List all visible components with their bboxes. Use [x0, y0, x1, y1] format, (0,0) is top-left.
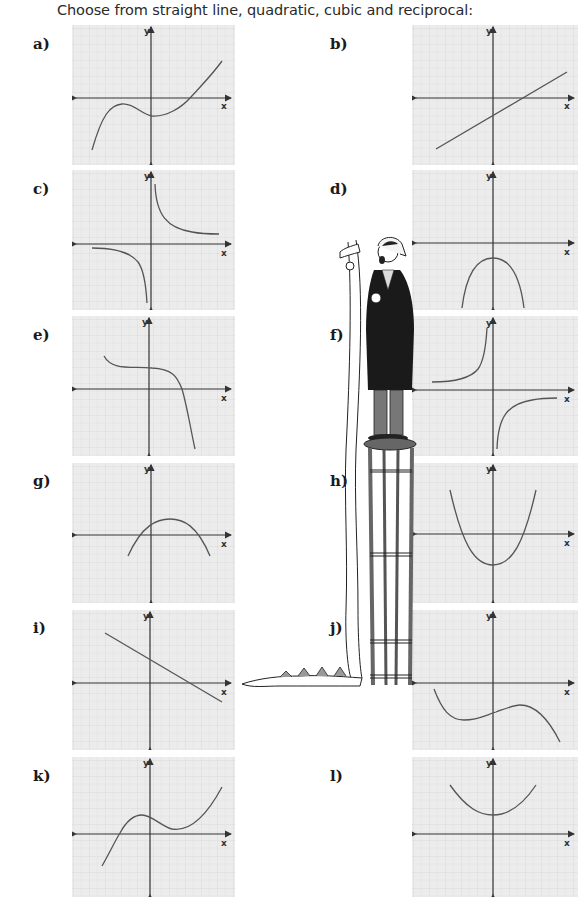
x-axis-label: x	[564, 394, 570, 404]
graph-panel-k: y x	[72, 757, 235, 897]
graph-e: y x	[72, 316, 235, 456]
graph-f: y x	[412, 316, 578, 456]
graph-panel-h: y x	[412, 463, 578, 603]
instruction-text: Choose from straight line, quadratic, cu…	[57, 2, 473, 18]
graph-panel-c: y x	[72, 170, 235, 310]
y-axis-label: y	[486, 318, 492, 328]
graph-l: y x	[412, 757, 578, 897]
x-axis-label: x	[221, 838, 227, 848]
graph-j: y x	[412, 610, 578, 750]
label-c: c)	[33, 180, 49, 198]
graph-panel-j: y x	[412, 610, 578, 750]
x-axis-label: x	[221, 393, 227, 403]
y-axis-label: y	[486, 171, 492, 181]
y-axis-label: y	[144, 464, 150, 474]
y-axis-label: y	[143, 758, 149, 768]
graph-a: y x	[72, 25, 235, 165]
graph-g: y x	[72, 463, 235, 603]
illustration-man-reading-scroll	[240, 170, 420, 690]
y-axis-label: y	[144, 171, 150, 181]
x-axis-label: x	[564, 687, 570, 697]
y-axis-label: y	[486, 611, 492, 621]
y-axis-label: y	[486, 26, 492, 36]
graph-panel-l: y x	[412, 757, 578, 897]
label-a: a)	[33, 35, 50, 53]
graph-panel-b: y x	[412, 25, 578, 165]
graph-panel-a: y x	[72, 25, 235, 165]
y-axis-label: y	[144, 26, 150, 36]
x-axis-label: x	[564, 101, 570, 111]
x-axis-label: x	[221, 539, 227, 549]
label-e: e)	[33, 326, 50, 344]
label-g: g)	[33, 472, 51, 490]
man-on-stool-illustration	[240, 170, 420, 690]
x-axis-label: x	[221, 687, 227, 697]
graph-panel-g: y x	[72, 463, 235, 603]
y-axis-label: y	[143, 611, 149, 621]
y-axis-label: y	[142, 317, 148, 327]
graph-c: y x	[72, 170, 235, 310]
label-i: i)	[33, 619, 46, 637]
graph-b: y x	[412, 25, 578, 165]
y-axis-label: y	[486, 464, 492, 474]
label-b: b)	[330, 35, 348, 53]
x-axis-label: x	[221, 248, 227, 258]
y-axis-label: y	[486, 758, 492, 768]
x-axis-label: x	[564, 838, 570, 848]
graph-d: y x	[412, 170, 578, 310]
graph-panel-e: y x	[72, 316, 235, 456]
x-axis-label: x	[221, 101, 227, 111]
graph-panel-d: y x	[412, 170, 578, 310]
graph-i: y x	[72, 610, 235, 750]
label-l: l)	[330, 767, 343, 785]
x-axis-label: x	[564, 247, 570, 257]
label-k: k)	[33, 767, 51, 785]
graph-k: y x	[72, 757, 235, 897]
x-axis-label: x	[564, 538, 570, 548]
graph-panel-f: y x	[412, 316, 578, 456]
graph-panel-i: y x	[72, 610, 235, 750]
graph-h: y x	[412, 463, 578, 603]
